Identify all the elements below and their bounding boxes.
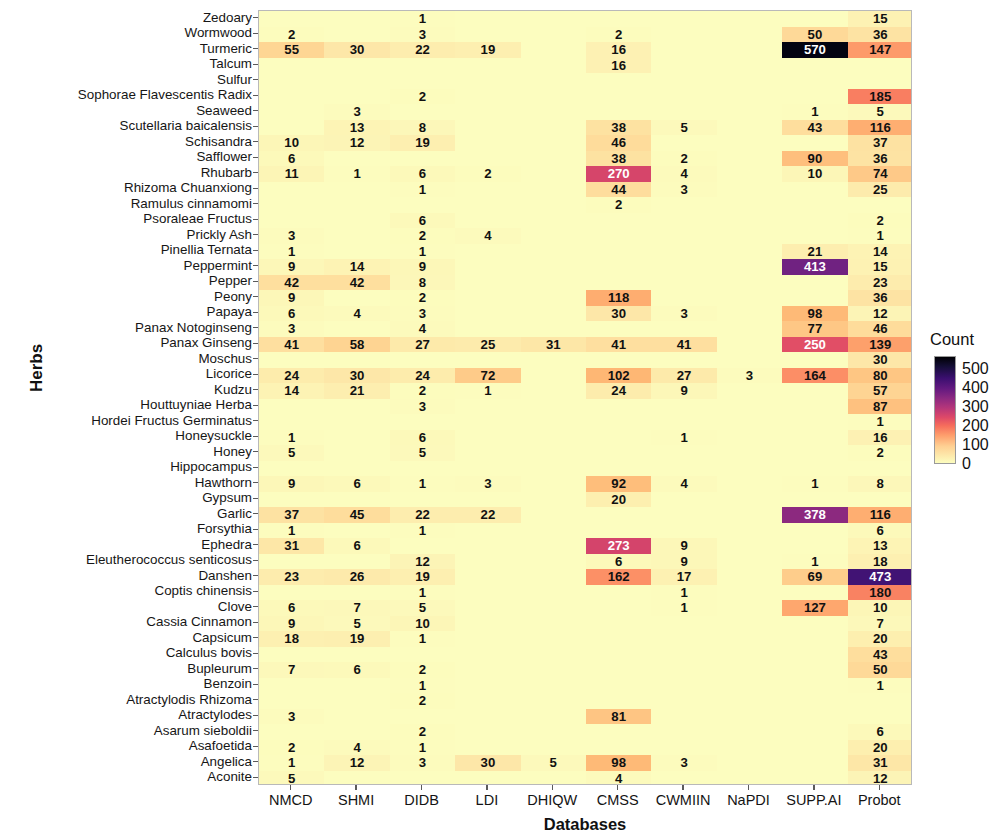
heatmap-cell [324,290,389,306]
y-tick-label: Hippocampus [30,460,252,473]
heatmap-cell-value: 12 [415,555,430,568]
colorbar-tick-label: 200 [962,418,989,434]
heatmap-cell [782,755,847,771]
heatmap-cell [455,445,520,461]
heatmap-cell: 25 [848,182,912,198]
heatmap-cell [324,771,389,786]
heatmap-cell: 6 [324,538,389,554]
heatmap-cell: 36 [848,290,912,306]
heatmap-cell: 3 [651,182,716,198]
x-axis-tick [879,785,880,790]
heatmap-cell: 4 [390,321,455,337]
heatmap-cell-value: 13 [873,539,888,552]
heatmap-cell [782,11,847,27]
heatmap-cell-value: 13 [350,121,365,134]
heatmap-cell-value: 570 [804,43,826,56]
x-tick-label: CWMIIN [656,792,711,808]
heatmap-cell [651,259,716,275]
y-axis-tick [253,110,258,111]
heatmap-cell [717,259,782,275]
y-tick-label: Asafoetida [30,739,252,752]
heatmap-cell-value: 1 [680,601,687,614]
y-tick-label: Honey [30,445,252,458]
heatmap-cell-value: 116 [870,508,891,521]
heatmap-cell: 6 [324,662,389,678]
heatmap-cell-value: 12 [350,136,365,149]
heatmap-cell-value: 2 [419,725,426,738]
heatmap-cell-value: 1 [811,105,818,118]
heatmap-cell: 22 [390,507,455,523]
heatmap-cell-value: 139 [869,338,891,351]
heatmap-cell-value: 43 [873,648,888,661]
y-tick-label: Moschus [30,352,252,365]
heatmap-cell: 4 [455,228,520,244]
heatmap-cell [324,647,389,663]
y-tick-label: Gypsum [30,491,252,504]
heatmap-cell-value: 102 [608,369,630,382]
heatmap-cell [717,42,782,58]
heatmap-cell [259,414,324,430]
heatmap-cell [651,73,716,89]
heatmap-cell [717,399,782,415]
heatmap-cell: 4 [324,306,389,322]
heatmap-cell: 102 [586,368,651,384]
heatmap-cell [259,120,324,136]
y-axis-tick [253,482,258,483]
heatmap-cell [848,461,912,477]
heatmap-cell-value: 9 [419,260,426,273]
heatmap-cell [521,73,586,89]
heatmap-cell [717,693,782,709]
heatmap-cell [521,538,586,554]
heatmap-cell: 55 [259,42,324,58]
heatmap-cell [324,399,389,415]
y-axis-tick [253,358,258,359]
x-axis-tick [290,785,291,790]
heatmap-cell: 12 [324,755,389,771]
heatmap-cell: 1 [455,383,520,399]
heatmap-cell [455,678,520,694]
heatmap-cell [455,585,520,601]
heatmap-cell-value: 4 [419,322,426,335]
y-tick-label: Ephedra [30,538,252,551]
heatmap-cell: 11 [259,166,324,182]
y-tick-label: Peony [30,290,252,303]
heatmap-cell: 2 [390,383,455,399]
heatmap-cell-value: 4 [484,229,491,242]
heatmap-cell: 13 [848,538,912,554]
heatmap-cell [782,693,847,709]
heatmap-cell: 1 [651,600,716,616]
heatmap-cell [586,523,651,539]
heatmap-cell [651,461,716,477]
heatmap-plot-area: 1152325036553022191657014716218531513838… [258,10,912,785]
heatmap-cell: 3 [259,709,324,725]
y-axis-tick [253,637,258,638]
heatmap-cell-value: 69 [808,570,823,583]
heatmap-cell-value: 22 [481,508,496,521]
y-axis-tick [253,188,258,189]
heatmap-cell [782,445,847,461]
heatmap-cell [586,430,651,446]
y-tick-label: Clove [30,600,252,613]
heatmap-cell [782,58,847,74]
heatmap-cell: 4 [651,476,716,492]
heatmap-cell [455,120,520,136]
heatmap-cell: 1 [651,430,716,446]
heatmap-cell [521,275,586,291]
heatmap-cell [651,740,716,756]
heatmap-cell [455,197,520,213]
y-axis-tick [253,327,258,328]
y-tick-label: Calculus bovis [30,646,252,659]
heatmap-cell-value: 147 [869,43,891,56]
heatmap-cell [717,27,782,43]
heatmap-cell [586,244,651,260]
heatmap-cell-value: 1 [288,756,295,769]
heatmap-cell-value: 127 [804,601,826,614]
heatmap-cell [521,135,586,151]
heatmap-cell: 31 [521,337,586,353]
heatmap-cell [259,197,324,213]
heatmap-cell-value: 38 [611,152,626,165]
heatmap-cell [521,678,586,694]
heatmap-cell: 14 [324,259,389,275]
heatmap-cell [651,678,716,694]
heatmap-cell [717,724,782,740]
